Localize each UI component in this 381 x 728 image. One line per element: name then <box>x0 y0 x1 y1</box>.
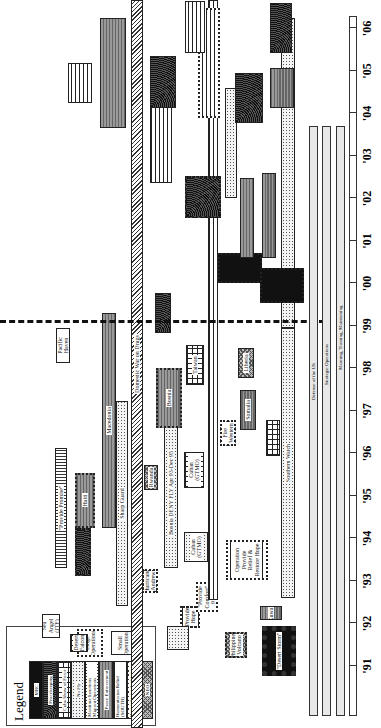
axis-tick <box>349 580 357 581</box>
axis-tick-label: '93 <box>360 573 375 588</box>
op-hline-06 <box>185 1 205 53</box>
lane-manning-training: Manning, Training, Maintaining <box>336 126 345 716</box>
axis-tick <box>349 453 357 454</box>
axis-tick-label: '02 <box>360 191 375 206</box>
axis-tick-label: '95 <box>360 488 375 503</box>
op-liberia: Liberia <box>238 348 254 378</box>
legend-item-show-of-force: Cuba Show of Force <box>57 661 71 719</box>
op-stripe-04 <box>100 18 126 128</box>
op-taiwan: Taiwan <box>186 345 204 385</box>
op-sharp-guard: Sharp Guard <box>116 401 128 606</box>
legend-item-no-fly: No Fly <box>71 661 85 719</box>
axis-tick <box>349 240 357 241</box>
legend-title: Legend <box>11 682 27 721</box>
rotated-chart-canvas: Legend MRC Peacekeeping Cuba Show of For… <box>0 0 381 728</box>
op-grid-95 <box>266 420 280 456</box>
axis-tick <box>349 70 357 71</box>
op-cuban-gtmo-94: Cuban (GTMO) <box>184 452 204 488</box>
op-dark-03 <box>235 73 263 123</box>
lane-defense-of-us: Defense of the US <box>309 126 318 716</box>
op-sea-angel: Sea Angel (JTF) <box>42 614 60 638</box>
axis-tick-label: '96 <box>360 446 375 461</box>
op-dark-06 <box>270 3 292 53</box>
op-domestic-war-on-drugs: Domestic War on Drugs <box>131 0 143 728</box>
op-hurricane-andrew: Hurricane Andrew <box>142 569 158 593</box>
op-haiti: Haiti <box>75 473 95 528</box>
axis-tick <box>349 538 357 539</box>
op-macedonia: Macedonia <box>102 313 116 528</box>
axis-tick <box>349 623 357 624</box>
op-bar-00 <box>240 178 254 258</box>
lane-strategic-ops: Strategic Operations <box>322 126 331 716</box>
axis-tick-label: '94 <box>360 531 375 546</box>
axis-tick-label: '91 <box>360 658 375 673</box>
op-desert-storm: "Desert Storm" <box>262 626 296 676</box>
axis-tick <box>349 113 357 114</box>
axis-tick <box>349 28 357 29</box>
op-southern-watch: Southern Watch <box>281 328 295 598</box>
op-haiti-early <box>75 528 91 576</box>
axis-tick-label: '06 <box>360 21 375 36</box>
legend-item-peacekeeping: Peacekeeping <box>43 661 57 719</box>
axis-tick-label: '99 <box>360 318 375 333</box>
op-dark-05 <box>150 56 176 108</box>
op-dark-98 <box>155 293 171 333</box>
legend-item-maritime: Maritime Sanctions Migrant Operations <box>85 661 99 719</box>
op-pacific-haven: Pacific Haven <box>56 328 70 363</box>
op-dark-01 <box>185 176 221 218</box>
op-korea <box>260 268 304 303</box>
time-axis <box>349 16 357 716</box>
legend-item-mrc: MRC <box>29 661 43 719</box>
axis-tick <box>349 283 357 284</box>
axis-tick <box>349 495 357 496</box>
axis-tick <box>349 368 357 369</box>
op-kuwait: Kuwait <box>260 606 282 620</box>
axis-tick-label: '92 <box>360 616 375 631</box>
axis-tick <box>349 155 357 156</box>
op-bosnia-deny-fly: Bosnia DENY FLY Apr 93-Dec 95 <box>164 418 178 568</box>
op-philippines-volcano: Philippines Volcano <box>225 632 247 658</box>
axis-tick-label: '97 <box>360 403 375 418</box>
axis-tick-label: '04 <box>360 106 375 121</box>
op-cuban-gtmo-93: Cuban (GTMO) <box>184 532 208 562</box>
axis-tick-label: '01 <box>360 233 375 248</box>
axis-tick <box>349 325 357 326</box>
axis-tick <box>349 665 357 666</box>
axis-tick <box>349 410 357 411</box>
op-hline-05 <box>68 63 92 103</box>
op-somalia: Somalia <box>240 390 256 430</box>
op-desert-falcon: Desert Falcon <box>70 634 88 652</box>
op-provide-promise: "Provide Promise" <box>55 448 67 568</box>
axis-tick <box>349 198 357 199</box>
op-bar-00b <box>262 173 276 258</box>
op-something-dots <box>167 626 189 650</box>
op-restore-hope: Operation Provide Relief & Restore Hope <box>226 540 268 580</box>
op-fire-western: Fire Western <box>220 420 236 446</box>
axis-tick-label: '05 <box>360 63 375 78</box>
op-rwanda: Rwanda <box>144 465 158 490</box>
op-bosnia: Bosnia <box>156 368 182 428</box>
op-hline-02 <box>150 98 172 183</box>
op-stripe-05 <box>270 68 294 108</box>
legend-item-peace-enforcement: Peace Enforcement <box>99 661 113 719</box>
reference-line-1997 <box>0 320 325 323</box>
legend-item-humanitarian-relief: Humanitarian Relief (SOUTH) <box>113 661 127 719</box>
axis-tick-label: '98 <box>360 361 375 376</box>
axis-tick-label: '03 <box>360 148 375 163</box>
axis-tick-label: '00 <box>360 276 375 291</box>
